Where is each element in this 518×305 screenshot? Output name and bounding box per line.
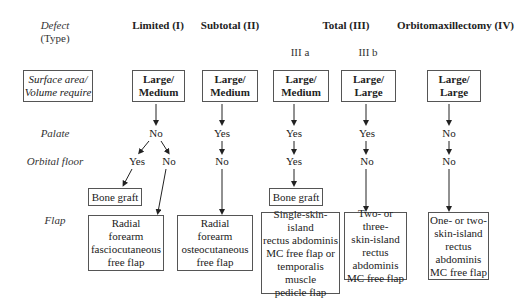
flow-arrows <box>0 0 518 305</box>
arrow-limited-palate-to-no <box>161 141 168 152</box>
arrow-limited-palate-to-yes <box>140 141 149 152</box>
arrow-limited-no-to-flap <box>158 169 166 212</box>
arrow-limited-yes-to-bone <box>124 169 132 184</box>
